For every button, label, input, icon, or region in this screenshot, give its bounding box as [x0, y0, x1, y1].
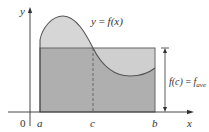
height-label-lhs: f(c) [169, 76, 184, 88]
height-label: f(c) = fave [169, 76, 206, 89]
curve-label-eq: = [96, 15, 108, 27]
y-axis-arrow-icon [28, 7, 32, 13]
tick-a-label: a [37, 117, 43, 129]
curve-label-rhs: f(x) [108, 15, 124, 28]
x-axis-label: x [186, 117, 192, 129]
x-axis-arrow-icon [187, 110, 194, 114]
height-label-sub: ave [196, 81, 206, 89]
mvt-diagram: y x 0 a c b y = f(x) f(c) = fave [0, 0, 209, 132]
arrow-up-icon [163, 48, 167, 53]
origin-label: 0 [20, 117, 26, 129]
y-axis-label: y [19, 5, 25, 17]
height-label-eq: = [183, 76, 194, 87]
tick-b-label: b [152, 117, 158, 129]
tick-c-label: c [90, 117, 95, 129]
curve-label: y = f(x) [90, 15, 123, 28]
arrow-down-icon [163, 107, 167, 112]
